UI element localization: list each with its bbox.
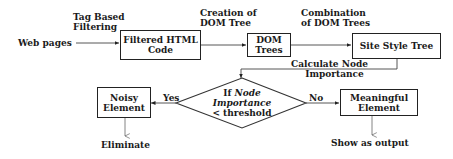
edge-label-line: Importance	[291, 69, 368, 79]
node-label-line: Trees	[255, 45, 282, 55]
output-show-as-output: Show as output	[331, 138, 409, 148]
node-decision-threshold: If Node Importance < threshold	[200, 88, 284, 118]
node-label-line: Site Style Tree	[360, 41, 433, 51]
edge-label-calculate-node-importance: Calculate Node Importance	[291, 59, 368, 79]
node-site-style-tree: Site Style Tree	[352, 33, 441, 59]
edge-label-creation-of-dom-tree: Creation of DOM Tree	[200, 8, 257, 28]
edge-label-line: Filtering	[73, 22, 125, 32]
edge-label-line: Combination	[301, 8, 370, 18]
node-filtered-html-code: Filtered HTML Code	[120, 30, 201, 60]
output-eliminate: Eliminate	[101, 140, 150, 150]
decision-line-2: Importance	[200, 98, 284, 108]
node-label-line: DOM	[255, 35, 282, 45]
edge-label-tag-based-filtering: Tag Based Filtering	[73, 12, 125, 32]
node-label-line: Meaningful	[350, 93, 408, 103]
edge-label-line: Tag Based	[73, 12, 125, 22]
edge-label-combination-of-dom-trees: Combination of DOM Trees	[301, 8, 370, 28]
edge-label-line: Calculate Node	[291, 59, 368, 69]
edge-label-line: DOM Tree	[200, 18, 257, 28]
edge-label-no: No	[309, 93, 323, 103]
decision-line-3: < threshold	[200, 108, 284, 118]
node-label-line: Noisy	[103, 93, 145, 103]
edge-label-yes: Yes	[163, 93, 179, 103]
node-dom-trees: DOM Trees	[247, 33, 291, 57]
node-label-line: Element	[350, 103, 408, 113]
edge-label-line: of DOM Trees	[301, 18, 370, 28]
node-label-line: Code	[123, 45, 198, 55]
node-label-line: Filtered HTML	[123, 35, 198, 45]
node-meaningful-element: Meaningful Element	[340, 89, 418, 116]
decision-line-1: If Node	[200, 88, 284, 98]
input-web-pages: Web pages	[18, 38, 72, 48]
node-noisy-element: Noisy Element	[97, 87, 151, 118]
edge-label-line: Creation of	[200, 8, 257, 18]
node-label-line: Element	[103, 103, 145, 113]
